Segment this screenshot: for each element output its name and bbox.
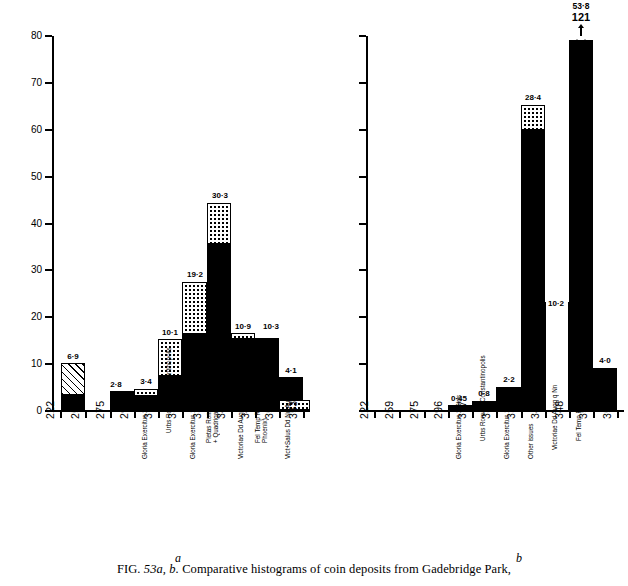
bar-value-label: 2·8 — [104, 381, 128, 389]
category-label: Gloria Exercitus 1 Std — [503, 398, 510, 459]
caption-text: Comparative histograms of coin deposits … — [182, 562, 511, 576]
category-label: Gloria Exercitus 2 Stds — [455, 395, 462, 459]
y-axis-b — [366, 36, 368, 411]
bar-value-label: 19·2 — [181, 271, 209, 279]
y-tick-label: 50 — [20, 172, 42, 182]
category-label: Gloria Exercitus 2 Stds — [141, 395, 148, 459]
bar-value-label: 10·2 — [548, 300, 564, 308]
category-label: Victoriae Dd Augg q Nn — [237, 394, 244, 459]
bar-b-341-348 — [521, 105, 545, 410]
bar-segment-solid — [521, 130, 545, 410]
bar-value-label: 4·1 — [279, 367, 303, 375]
y-tick-label: 30 — [20, 265, 42, 275]
y-tick-label: 0 — [20, 406, 42, 416]
caption-prefix: FIG. — [117, 562, 141, 576]
y-tick-label: 80 — [20, 31, 42, 41]
bar-value-label: 28·4 — [519, 94, 547, 102]
x-tick-label: 222 — [45, 401, 56, 419]
x-tick-label: 296 — [433, 401, 444, 419]
bar-value-label: 10·3 — [257, 323, 285, 331]
y-axis-a — [52, 36, 54, 411]
bar-segment-dotted — [207, 203, 231, 244]
bar-value-label: 4·0 — [593, 357, 617, 365]
bar-segment-dotted — [182, 282, 207, 334]
bar-value-label: 10·1 — [156, 329, 184, 337]
category-label: Other issues — [527, 424, 534, 459]
histogram-panel-a: 80 70 60 50 40 30 20 10 0 6·9 2·8 — [0, 0, 314, 586]
category-label: Pietas Romana Pax Publica + Quadriga — [205, 365, 219, 443]
x-tick-label: 259 — [384, 401, 395, 419]
truncation-arrow-head-icon — [578, 24, 584, 28]
x-tick-label: 275 — [95, 401, 106, 419]
x-tick-label: 341 — [530, 401, 541, 419]
histogram-panel-b: 0·45 0·8 2·2 28·4 10·2 53·8 121 4·0 222 … — [314, 0, 628, 586]
bar-value-label: 30·3 — [206, 192, 234, 200]
category-label: Vict+Salus Dd Nn Aug et Cae — [284, 377, 291, 459]
bar-value-label: 6·9 — [61, 353, 85, 361]
category-label: Victoriae Dd Augg q Nn — [551, 385, 558, 450]
x-tick-label: 275 — [409, 401, 420, 419]
bar-value-label: 3·4 — [134, 378, 158, 386]
truncation-count: 121 — [563, 11, 599, 23]
bar-segment-dotted — [521, 105, 545, 130]
truncation-percent: 53·8 — [563, 2, 599, 11]
category-label: Fel Temp Reparatio (Galley- Phoenix) — [254, 364, 268, 443]
y-tick-label: 70 — [20, 78, 42, 88]
category-label: Gloria Exercitus 1 Std — [189, 398, 196, 459]
bar-segment-solid — [569, 40, 593, 410]
y-tick-label: 20 — [20, 312, 42, 322]
figure-caption: FIG. 53a, b. Comparative histograms of c… — [0, 562, 628, 577]
y-tick-label: 60 — [20, 125, 42, 135]
truncation-arrow-shaft — [580, 27, 581, 36]
truncation-jagged-top-icon — [569, 36, 593, 46]
category-label: Fel Temp Reparatio (Phoenix) — [575, 357, 582, 441]
x-tick-label: 353 — [602, 401, 613, 419]
truncation-annotation: 53·8 121 — [563, 2, 599, 23]
y-tick-label: 40 — [20, 219, 42, 229]
caption-number: 53a, b. — [144, 562, 179, 576]
bar-value-label: 2·2 — [495, 376, 523, 384]
bar-b-350-353 — [569, 36, 593, 410]
x-tick-label: 259 — [70, 401, 81, 419]
x-tick-label: 222 — [359, 401, 370, 419]
category-label: Urbs Roma + Constantinopolis — [479, 355, 486, 441]
category-label: Urbs Roma + Constantinopolis — [165, 347, 172, 433]
y-tick-label: 10 — [20, 359, 42, 369]
bar-value-label: 10·9 — [229, 323, 257, 331]
x-tick-label: 296 — [119, 401, 130, 419]
bar-segment-hatched — [61, 363, 85, 395]
